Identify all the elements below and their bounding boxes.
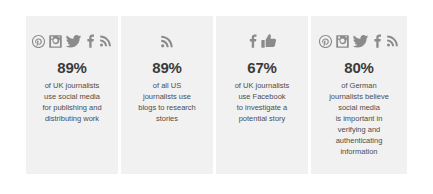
stat-card-german-journalists-verification[interactable]: 80% of German journalists believe social… [311, 16, 407, 174]
desc-line: authenticating [316, 135, 402, 146]
desc-line: use social media [31, 91, 113, 102]
desc-line: distributing work [31, 113, 113, 124]
desc-line: journalists use [126, 91, 208, 102]
desc-line: of all US [126, 80, 208, 91]
rss-icon [99, 34, 113, 48]
desc-line: for publishing and [31, 102, 113, 113]
stat-description: of UK journalists use Facebook to invest… [221, 80, 303, 124]
stat-card-uk-journalists-social-media[interactable]: 89% of UK journalists use social media f… [26, 16, 118, 174]
desc-line: stories [126, 113, 208, 124]
instagram-icon [48, 34, 63, 49]
desc-line: social media [316, 102, 402, 113]
rss-icon [386, 34, 400, 48]
stat-percentage: 89% [152, 59, 181, 76]
twitter-icon [352, 33, 369, 50]
pinterest-icon [31, 34, 46, 49]
stat-card-us-journalists-blogs[interactable]: 89% of all US journalists use blogs to r… [121, 16, 213, 174]
desc-line: of UK journalists [221, 80, 303, 91]
desc-line: to investigate a [221, 102, 303, 113]
infographic-container: 89% of UK journalists use social media f… [0, 0, 433, 194]
desc-line: of German [316, 80, 402, 91]
desc-line: is important in [316, 113, 402, 124]
twitter-icon [65, 33, 82, 50]
stat-percentage: 67% [247, 59, 276, 76]
rss-icon [160, 34, 175, 49]
desc-line: use Facebook [221, 91, 303, 102]
stat-card-uk-journalists-facebook[interactable]: 67% of UK journalists use Facebook to in… [216, 16, 308, 174]
stat-description: of German journalists believe social med… [316, 80, 402, 157]
stat-percentage: 80% [344, 59, 373, 76]
desc-line: of UK journalists [31, 80, 113, 91]
facebook-icon [247, 34, 259, 49]
desc-line: journalists believe [316, 91, 402, 102]
social-icon-row [31, 30, 113, 52]
facebook-icon [84, 34, 97, 49]
social-icon-row [160, 30, 175, 52]
stat-cards-row: 89% of UK journalists use social media f… [26, 16, 407, 174]
instagram-icon [335, 34, 350, 49]
desc-line: information [316, 146, 402, 157]
stat-description: of all US journalists use blogs to resea… [126, 80, 208, 124]
facebook-icon [371, 34, 384, 49]
thumbs-up-icon [261, 33, 277, 49]
stat-percentage: 89% [57, 59, 86, 76]
desc-line: blogs to research [126, 102, 208, 113]
social-icon-row [318, 30, 400, 52]
social-icon-row [247, 30, 277, 52]
desc-line: potential story [221, 113, 303, 124]
stat-description: of UK journalists use social media for p… [31, 80, 113, 124]
pinterest-icon [318, 34, 333, 49]
desc-line: verifying and [316, 124, 402, 135]
